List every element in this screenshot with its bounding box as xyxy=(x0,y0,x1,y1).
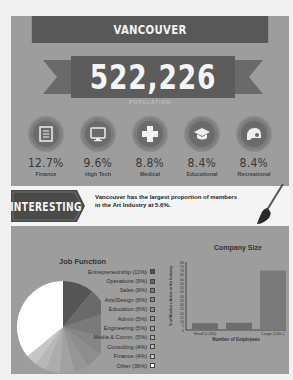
legend-swatch xyxy=(150,335,155,340)
legend-swatch xyxy=(150,354,155,359)
monitor-icon xyxy=(82,118,114,150)
svg-text:20: 20 xyxy=(180,312,184,316)
svg-text:50: 50 xyxy=(180,286,184,290)
svg-text:15: 15 xyxy=(180,316,184,320)
stat-label: High Tech xyxy=(85,171,111,177)
svg-text:10: 10 xyxy=(180,320,184,324)
stat-percent: 8.8% xyxy=(136,156,165,170)
stat-percent: 8.4% xyxy=(188,156,217,170)
helmet-icon xyxy=(238,118,270,150)
legend-swatch xyxy=(150,307,155,312)
fact-line-2: in the Art Industry at 5.6%. xyxy=(95,202,255,210)
bar xyxy=(226,323,252,330)
medical-cross-icon xyxy=(134,118,166,150)
interesting-label: INTERESTING xyxy=(22,190,71,222)
svg-text:30: 30 xyxy=(180,303,184,307)
legend-item: Education (6%) xyxy=(51,305,155,314)
city-title: VANCOUVER xyxy=(32,16,268,43)
svg-text:75: 75 xyxy=(180,265,184,269)
legend-swatch xyxy=(150,316,155,321)
stat-label: Medical xyxy=(140,171,160,177)
legend-item: Entrepreneurship (11%) xyxy=(51,267,155,276)
stat-label: Recreational xyxy=(237,171,270,177)
stat-percent: 9.6% xyxy=(84,156,113,170)
legend-item: Sales (9%) xyxy=(51,286,155,295)
company-size-title: Company Size xyxy=(214,244,262,251)
legend-item: Other (36%) xyxy=(51,361,155,370)
company-size-bar-chart: 05101520253035404550556065707580Small (<… xyxy=(164,256,289,360)
stat-label: Finance xyxy=(36,171,57,177)
graduation-cap-icon xyxy=(186,118,218,150)
population-ribbon: 522,226 xyxy=(43,56,263,98)
svg-text:65: 65 xyxy=(180,273,184,277)
legend-item: Engineering (5%) xyxy=(51,323,155,332)
legend-swatch xyxy=(150,326,155,331)
legend-item: Finance (4%) xyxy=(51,352,155,361)
bar xyxy=(192,323,218,330)
finance-document-icon xyxy=(30,118,62,150)
svg-text:Large (500+): Large (500+) xyxy=(261,331,285,336)
svg-text:% of Members Active in the Ind: % of Members Active in the Industry xyxy=(169,266,173,326)
bar xyxy=(260,271,286,331)
legend-item: Arts/Design (6%) xyxy=(51,295,155,304)
svg-text:55: 55 xyxy=(180,282,184,286)
svg-text:Small (<200): Small (<200) xyxy=(194,331,217,336)
legend-item: Operations (9%) xyxy=(51,276,155,285)
stat-label: Educational xyxy=(186,171,217,177)
legend-item: Media & Comm. (5%) xyxy=(51,333,155,342)
legend-swatch xyxy=(150,279,155,284)
legend-item: Consulting (4%) xyxy=(51,342,155,351)
stat-percent: 8.4% xyxy=(240,156,269,170)
svg-text:40: 40 xyxy=(180,295,184,299)
svg-text:80: 80 xyxy=(180,261,184,265)
population-caption: POPULATION xyxy=(11,99,289,105)
stat-percent: 12.7% xyxy=(28,156,64,170)
legend-item: Admin (5%) xyxy=(51,314,155,323)
fact-line-1: Vancouver has the largest proportion of … xyxy=(95,194,255,202)
paintbrush-icon xyxy=(255,182,285,230)
legend-swatch xyxy=(150,269,155,274)
svg-text:70: 70 xyxy=(180,269,184,273)
legend-swatch xyxy=(150,363,155,368)
job-function-title: Job Function xyxy=(59,257,106,266)
interesting-fact: Vancouver has the largest proportion of … xyxy=(95,194,255,209)
svg-text:45: 45 xyxy=(180,290,184,294)
job-function-legend: Entrepreneurship (11%) Operations (9%) S… xyxy=(51,267,155,370)
legend-swatch xyxy=(150,297,155,302)
legend-swatch xyxy=(150,344,155,349)
svg-text:5: 5 xyxy=(182,324,184,328)
population-number: 522,226 xyxy=(67,56,239,98)
interesting-tag: INTERESTING xyxy=(11,190,85,222)
svg-text:Number of Employees: Number of Employees xyxy=(212,337,260,342)
svg-text:25: 25 xyxy=(180,307,184,311)
svg-text:60: 60 xyxy=(180,278,184,282)
legend-swatch xyxy=(150,288,155,293)
svg-text:35: 35 xyxy=(180,299,184,303)
infographic-card: VANCOUVER 522,226 POPULATION 12.7% Finan… xyxy=(11,16,289,374)
svg-text:0: 0 xyxy=(182,329,184,333)
